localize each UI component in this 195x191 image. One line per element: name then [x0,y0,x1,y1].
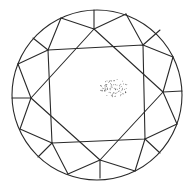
pinpoint-dot [117,79,118,80]
pinpoint-dot [110,88,111,89]
facet-edge [48,18,61,50]
diamond-outline [0,0,195,191]
pinpoint-dot [117,89,118,90]
pinpoint-dot [115,89,116,90]
facet-edge [145,139,160,153]
pinpoint-dot [119,86,120,87]
facet-edge [20,98,31,129]
pinpoint-dot [125,84,126,85]
pinpoint-dot [107,80,108,81]
pinpoint-dot [100,90,101,91]
table-facet [48,45,145,143]
facet-edge [163,92,177,124]
pinpoint-dot [108,82,109,83]
pinpoint-dot [105,84,106,85]
pinpoint-dot [106,84,107,85]
pinpoint-dot [111,85,112,86]
facet-edge [33,38,48,50]
pinpoint-dot [111,84,112,85]
pinpoint-dot [107,88,108,89]
pinpoint-dot [106,86,107,87]
pinpoint-dot [112,87,113,88]
pinpoint-dot [120,95,121,96]
pinpoint-dot [117,92,118,93]
pinpoint-dot [110,83,111,84]
pinpoint-dot [105,89,106,90]
girdle-circle [12,10,182,180]
pinpoint-dot [110,92,111,93]
facet-edge [18,50,48,64]
pinpoint-dot [104,85,105,86]
pinpoint-dot [122,89,123,90]
pinpoint-dot [109,80,110,81]
diamond-plot-diagram: Round brilliant cut diamond plot (crown … [0,0,195,191]
pinpoint-dot [125,92,126,93]
pinpoint-dot [102,88,103,89]
pinpoint-dot [121,86,122,87]
pinpoint-dot [114,88,115,89]
facet-edge [94,14,126,29]
inclusion-cloud [100,79,127,97]
pinpoint-dot [105,81,106,82]
pinpoint-dot [110,88,111,89]
pinpoint-dot [120,92,121,93]
facet-edge [143,30,160,45]
pinpoint-dot [105,88,106,89]
pinpoint-dot [121,94,122,95]
pinpoint-dot [102,90,103,91]
facet-edge [52,143,68,174]
pinpoint-dot [112,94,113,95]
pinpoint-dot [123,93,124,94]
facet-edge [61,18,94,29]
pinpoint-dot [115,84,116,85]
pinpoint-dot [119,90,120,91]
facet-edge [163,91,182,92]
pinpoint-dot [121,90,122,91]
pinpoint-dot [118,91,119,92]
pinpoint-dot [110,89,111,90]
pinpoint-dot [122,88,123,89]
pinpoint-dot [125,91,126,92]
facet-lines [12,10,182,178]
pinpoint-dot [124,89,125,90]
pinpoint-dot [110,80,111,81]
pinpoint-dot [122,93,123,94]
pinpoint-dot [104,91,105,92]
pinpoint-dot [106,90,107,91]
pinpoint-dot [114,80,115,81]
facet-edge [38,143,52,157]
pinpoint-dot [126,84,127,85]
pinpoint-dot [123,83,124,84]
facet-edge [163,57,173,92]
pinpoint-dot [105,87,106,88]
pinpoint-dot [100,85,101,86]
pinpoint-dot [111,86,112,87]
facet-edge [143,45,173,57]
pinpoint-dot [102,91,103,92]
pinpoint-dot [112,95,113,96]
pinpoint-dot [120,84,121,85]
pinpoint-dot [113,80,114,81]
pinpoint-dot [114,92,115,93]
pinpoint-dot [106,95,107,96]
pinpoint-dot [122,81,123,82]
pinpoint-dot [113,93,114,94]
pinpoint-dot [111,95,112,96]
pinpoint-dot [115,93,116,94]
pinpoint-dot [119,88,120,89]
facet-edge [145,124,177,139]
pinpoint-dot [113,92,114,93]
pinpoint-dot [115,96,116,97]
pinpoint-dot [113,84,114,85]
pinpoint-dot [103,88,104,89]
pinpoint-dot [119,85,120,86]
pinpoint-dot [117,85,118,86]
pinpoint-dot [126,88,127,89]
facet-edge [68,160,100,174]
facet-edge [100,160,135,171]
pinpoint-dot [111,81,112,82]
facet-edge [18,64,31,98]
pinpoint-dot [112,96,113,97]
facet-edge [20,129,52,143]
pinpoint-dot [115,88,116,89]
